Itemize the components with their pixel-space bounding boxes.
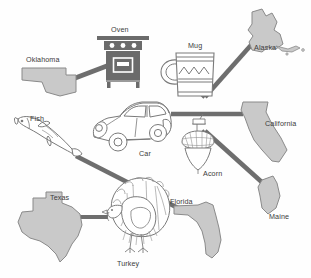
label-oklahoma: Oklahoma bbox=[26, 56, 60, 63]
label-acorn: Acorn bbox=[203, 170, 222, 177]
object-car[interactable] bbox=[93, 102, 171, 151]
state-shape-oklahoma[interactable] bbox=[22, 68, 76, 96]
label-car: Car bbox=[139, 150, 151, 157]
label-florida: Florida bbox=[170, 198, 193, 205]
diagram-svg bbox=[0, 0, 311, 278]
label-alaska: Alaska bbox=[254, 44, 276, 51]
state-shape-maine[interactable] bbox=[258, 176, 280, 214]
label-oven: Oven bbox=[111, 26, 129, 33]
fish-tail bbox=[72, 149, 82, 156]
fish-head-detail bbox=[15, 118, 19, 125]
acorn-nut bbox=[185, 148, 211, 170]
state-shape-california[interactable] bbox=[241, 102, 287, 162]
state-shape-texas[interactable] bbox=[18, 192, 82, 262]
label-mug: Mug bbox=[188, 42, 202, 49]
object-oven[interactable] bbox=[97, 36, 149, 88]
label-maine: Maine bbox=[269, 213, 289, 220]
label-fish: Fish bbox=[30, 115, 44, 122]
object-turkey[interactable] bbox=[102, 177, 170, 253]
diagram-canvas: Oklahoma Oven Mug Alaska California Fish… bbox=[0, 0, 311, 278]
object-acorn[interactable] bbox=[182, 114, 214, 174]
state-shape-florida[interactable] bbox=[174, 202, 221, 258]
label-turkey: Turkey bbox=[117, 260, 139, 267]
label-texas: Texas bbox=[50, 194, 69, 201]
label-california: California bbox=[265, 120, 296, 127]
object-mug[interactable] bbox=[161, 53, 214, 96]
object-fish[interactable] bbox=[15, 117, 83, 157]
